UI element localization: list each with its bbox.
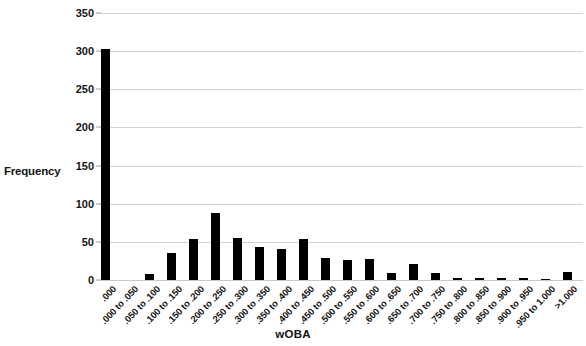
y-tick-mark [96, 241, 101, 242]
y-axis-title: Frequency [4, 165, 60, 177]
y-tick-label: 0 [56, 274, 94, 286]
y-tick-mark [96, 89, 101, 90]
y-tick-mark [96, 203, 101, 204]
y-tick-label: 350 [56, 7, 94, 19]
bar [431, 273, 440, 280]
gridline [100, 280, 583, 281]
bar [475, 278, 484, 280]
y-tick-label: 150 [56, 160, 94, 172]
bar [365, 259, 374, 280]
y-tick-label: 200 [56, 121, 94, 133]
bar [211, 213, 220, 280]
y-tick-mark [96, 280, 101, 281]
x-tick-label: >1.000 [552, 284, 579, 311]
plot-area [100, 13, 583, 280]
bar [233, 238, 242, 280]
chart-screenshot: Frequency 050100150200250300350 .000.000… [0, 0, 586, 346]
y-tick-label: 100 [56, 198, 94, 210]
bar [145, 274, 154, 280]
y-tick-mark [96, 51, 101, 52]
bar [497, 278, 506, 280]
bar [541, 279, 550, 280]
x-axis-ticks: .000.000 to .050.050 to .100.100 to .150… [100, 282, 583, 334]
bar [519, 278, 528, 280]
bar [167, 253, 176, 280]
bar [277, 249, 286, 280]
y-tick-label: 250 [56, 83, 94, 95]
y-tick-label: 300 [56, 45, 94, 57]
x-axis-title: wOBA [0, 328, 586, 340]
bar [189, 239, 198, 280]
y-tick-mark [96, 13, 101, 14]
bar [101, 49, 110, 280]
bar [563, 272, 572, 280]
bar [453, 278, 462, 280]
bar [255, 247, 264, 280]
y-tick-mark [96, 165, 101, 166]
y-tick-label: 50 [56, 236, 94, 248]
bar [387, 273, 396, 280]
bar-series [100, 13, 583, 280]
bar [299, 239, 308, 280]
bar [321, 258, 330, 280]
y-tick-mark [96, 127, 101, 128]
bar [409, 264, 418, 280]
bar [343, 260, 352, 280]
